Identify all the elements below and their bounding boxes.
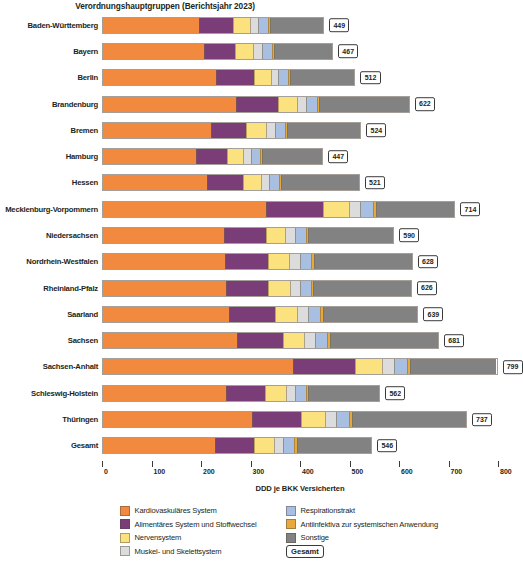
bar-segment[interactable]	[252, 412, 301, 427]
bar-segment[interactable]	[103, 333, 237, 348]
bar-segment[interactable]	[233, 18, 250, 33]
stacked-bar[interactable]: 626	[102, 280, 412, 297]
bar-segment[interactable]	[103, 228, 224, 243]
legend-item[interactable]: Antiinfektiva zur systemischen Anwendung	[286, 518, 438, 532]
bar-segment[interactable]	[211, 123, 246, 138]
bar-segment[interactable]	[301, 412, 326, 427]
bar-segment[interactable]	[225, 254, 268, 269]
bar-segment[interactable]	[300, 281, 311, 296]
bar-segment[interactable]	[103, 386, 226, 401]
bar-segment[interactable]	[308, 307, 320, 322]
bar-segment[interactable]	[290, 70, 354, 85]
bar-segment[interactable]	[236, 97, 278, 112]
bar-segment[interactable]	[215, 438, 254, 453]
bar-segment[interactable]	[290, 281, 300, 296]
stacked-bar[interactable]: 524	[102, 122, 361, 139]
legend-item[interactable]: Muskel- und Skelettsystem	[120, 545, 257, 559]
bar-segment[interactable]	[266, 202, 324, 217]
bar-segment[interactable]	[103, 359, 293, 374]
bar-segment[interactable]	[103, 412, 252, 427]
bar-segment[interactable]	[103, 70, 216, 85]
bar-segment[interactable]	[278, 70, 288, 85]
bar-segment[interactable]	[275, 123, 285, 138]
bar-segment[interactable]	[199, 18, 233, 33]
bar-segment[interactable]	[297, 307, 308, 322]
bar-segment[interactable]	[300, 254, 312, 269]
bar-segment[interactable]	[269, 175, 279, 190]
bar-segment[interactable]	[268, 281, 290, 296]
bar-segment[interactable]	[315, 333, 327, 348]
stacked-bar[interactable]: 447	[102, 148, 323, 165]
bar-segment[interactable]	[261, 175, 269, 190]
bar-segment[interactable]	[382, 359, 394, 374]
bar-segment[interactable]	[306, 97, 317, 112]
bar-segment[interactable]	[360, 202, 373, 217]
bar-segment[interactable]	[314, 254, 412, 269]
bar-segment[interactable]	[352, 412, 466, 427]
bar-segment[interactable]	[246, 123, 266, 138]
bar-segment[interactable]	[254, 70, 271, 85]
bar-segment[interactable]	[295, 386, 306, 401]
bar-segment[interactable]	[325, 412, 336, 427]
bar-segment[interactable]	[283, 333, 305, 348]
bar-segment[interactable]	[103, 307, 229, 322]
bar-segment[interactable]	[243, 149, 251, 164]
bar-segment[interactable]	[103, 438, 215, 453]
bar-segment[interactable]	[349, 202, 360, 217]
stacked-bar[interactable]: 714	[102, 201, 455, 218]
bar-segment[interactable]	[262, 44, 271, 59]
bar-segment[interactable]	[266, 228, 286, 243]
bar-segment[interactable]	[287, 123, 361, 138]
stacked-bar[interactable]: 512	[102, 69, 355, 86]
bar-segment[interactable]	[250, 18, 258, 33]
bar-segment[interactable]	[103, 202, 266, 217]
bar-segment[interactable]	[229, 307, 274, 322]
legend-item[interactable]: Nervensystem	[120, 531, 257, 545]
bar-segment[interactable]	[196, 149, 226, 164]
stacked-bar[interactable]: 799	[102, 358, 498, 375]
bar-segment[interactable]	[286, 386, 295, 401]
legend-item[interactable]: Alimentäres System und Stoffwechsel	[120, 518, 257, 532]
bar-segment[interactable]	[265, 386, 286, 401]
stacked-bar[interactable]: 622	[102, 96, 410, 113]
stacked-bar[interactable]: 467	[102, 43, 333, 60]
stacked-bar[interactable]: 590	[102, 227, 394, 244]
bar-segment[interactable]	[226, 386, 265, 401]
bar-segment[interactable]	[103, 175, 207, 190]
bar-segment[interactable]	[226, 281, 268, 296]
bar-segment[interactable]	[376, 202, 455, 217]
bar-segment[interactable]	[216, 70, 253, 85]
stacked-bar[interactable]: 449	[102, 17, 324, 34]
bar-segment[interactable]	[103, 281, 226, 296]
legend-item[interactable]: Respirationstrakt	[286, 504, 438, 518]
bar-segment[interactable]	[293, 359, 355, 374]
bar-segment[interactable]	[283, 438, 294, 453]
bar-segment[interactable]	[394, 359, 408, 374]
bar-segment[interactable]	[270, 18, 323, 33]
bar-segment[interactable]	[227, 149, 244, 164]
bar-segment[interactable]	[266, 123, 275, 138]
bar-segment[interactable]	[308, 386, 379, 401]
bar-segment[interactable]	[258, 18, 267, 33]
stacked-bar[interactable]: 562	[102, 385, 380, 402]
legend-item[interactable]: Sonstige	[286, 531, 438, 545]
bar-segment[interactable]	[262, 149, 322, 164]
bar-segment[interactable]	[254, 438, 274, 453]
bar-segment[interactable]	[281, 175, 359, 190]
bar-segment[interactable]	[297, 438, 372, 453]
bar-segment[interactable]	[243, 175, 261, 190]
bar-segment[interactable]	[323, 307, 417, 322]
bar-segment[interactable]	[268, 254, 289, 269]
bar-segment[interactable]	[295, 228, 306, 243]
stacked-bar[interactable]: 546	[102, 437, 372, 454]
bar-segment[interactable]	[103, 18, 199, 33]
bar-segment[interactable]	[103, 254, 225, 269]
bar-segment[interactable]	[237, 333, 282, 348]
stacked-bar[interactable]: 521	[102, 174, 360, 191]
bar-segment[interactable]	[319, 97, 409, 112]
bar-segment[interactable]	[275, 307, 298, 322]
bar-segment[interactable]	[251, 149, 260, 164]
stacked-bar[interactable]: 639	[102, 306, 418, 323]
bar-segment[interactable]	[323, 202, 349, 217]
bar-segment[interactable]	[103, 97, 236, 112]
